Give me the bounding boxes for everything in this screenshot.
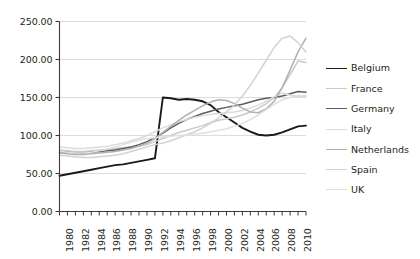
x-tick-label: 2008	[286, 228, 297, 252]
legend-label: Belgium	[351, 63, 390, 73]
legend-item-netherlands[interactable]: Netherlands	[326, 139, 420, 159]
line-chart: 0.0050.00100.00150.00200.00250.00 198019…	[0, 0, 420, 259]
x-tick-label: 1990	[143, 228, 154, 252]
x-tick-label: 2002	[239, 228, 250, 252]
legend-swatch-icon	[326, 68, 347, 69]
y-tick-label: 150.00	[0, 92, 53, 103]
y-tick-label: 250.00	[0, 16, 53, 27]
legend-item-germany[interactable]: Germany	[326, 99, 420, 119]
x-tick-label: 2000	[223, 228, 234, 252]
legend-label: France	[351, 84, 383, 94]
x-tick-label: 2004	[255, 228, 266, 252]
legend-label: UK	[351, 185, 364, 195]
legend-item-france[interactable]: France	[326, 78, 420, 98]
legend-item-spain[interactable]: Spain	[326, 159, 420, 179]
legend-item-belgium[interactable]: Belgium	[326, 58, 420, 78]
x-tick-label: 1984	[96, 228, 107, 252]
legend-swatch-icon	[326, 189, 347, 190]
legend-swatch-icon	[326, 169, 347, 170]
x-tick-label: 1986	[111, 228, 122, 252]
legend-item-uk[interactable]: UK	[326, 180, 420, 200]
series-line-uk	[60, 95, 307, 153]
legend-label: Spain	[351, 165, 378, 175]
x-tick-label: 2010	[302, 228, 313, 252]
x-tick-label: 1996	[191, 228, 202, 252]
x-tick-label: 2006	[270, 228, 281, 252]
y-tick-label: 0.00	[0, 206, 53, 217]
legend-label: Italy	[351, 124, 372, 134]
legend-swatch-icon	[326, 149, 347, 150]
y-tick-label: 100.00	[0, 130, 53, 141]
legend-swatch-icon	[326, 88, 347, 89]
legend-label: Germany	[351, 104, 395, 114]
y-tick-label: 200.00	[0, 54, 53, 65]
x-tick-label: 1982	[80, 228, 91, 252]
x-tick-label: 1992	[159, 228, 170, 252]
x-tick-label: 1980	[64, 228, 75, 252]
x-tick-label: 1988	[127, 228, 138, 252]
legend-item-italy[interactable]: Italy	[326, 119, 420, 139]
y-tick-label: 50.00	[0, 168, 53, 179]
legend-swatch-icon	[326, 108, 347, 109]
series-line-spain	[60, 36, 307, 158]
legend-label: Netherlands	[351, 145, 409, 155]
legend-swatch-icon	[326, 129, 347, 130]
x-tick-label: 1994	[175, 228, 186, 252]
chart-legend: BelgiumFranceGermanyItalyNetherlandsSpai…	[326, 58, 420, 200]
x-tick-label: 1998	[207, 228, 218, 252]
